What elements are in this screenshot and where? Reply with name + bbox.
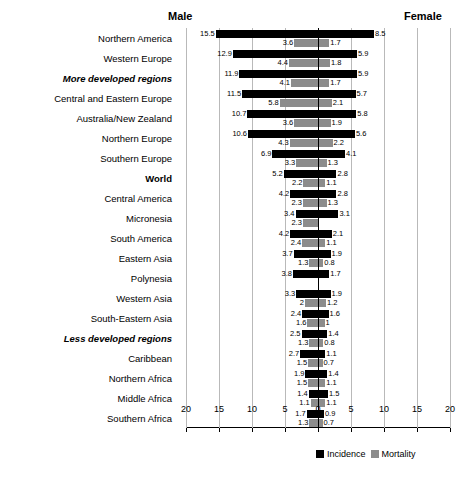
right-incidence-bar xyxy=(318,210,338,218)
x-axis-tick xyxy=(219,428,220,432)
right-mortality-bar xyxy=(318,79,329,87)
center-axis-line xyxy=(318,28,319,428)
left-mortality-value: 2.4 xyxy=(291,239,302,247)
left-mortality-bar xyxy=(302,239,318,247)
left-incidence-value: 1.9 xyxy=(294,370,305,378)
left-incidence-bar xyxy=(290,190,318,198)
chart-legend: Incidence Mortality xyxy=(316,449,416,459)
right-incidence-bar xyxy=(318,290,331,298)
left-mortality-value: 1.5 xyxy=(297,379,308,387)
right-mortality-bar xyxy=(318,99,332,107)
region-label: Australia/New Zealand xyxy=(76,113,172,124)
right-incidence-value: 1.4 xyxy=(327,370,338,378)
region-label-column: Northern AmericaWestern EuropeMore devel… xyxy=(0,28,180,428)
x-axis-tick xyxy=(285,428,286,432)
left-incidence-bar xyxy=(247,110,318,118)
right-incidence-value: 1.4 xyxy=(327,330,338,338)
left-mortality-bar xyxy=(309,419,318,427)
left-incidence-bar xyxy=(284,170,318,178)
left-mortality-bar xyxy=(294,39,318,47)
left-mortality-value: 2.3 xyxy=(291,199,302,207)
right-mortality-value: 0.8 xyxy=(323,339,334,347)
left-mortality-bar xyxy=(309,339,318,347)
left-incidence-value: 3.8 xyxy=(281,270,292,278)
right-mortality-value: 1.3 xyxy=(327,199,338,207)
female-axis-header: Female xyxy=(404,10,442,22)
right-mortality-bar xyxy=(318,239,325,247)
left-mortality-bar xyxy=(291,79,318,87)
right-mortality-bar xyxy=(318,379,325,387)
right-mortality-value: 1.7 xyxy=(329,79,340,87)
right-incidence-bar xyxy=(318,150,345,158)
left-mortality-value: 1.3 xyxy=(298,259,309,267)
left-mortality-bar xyxy=(296,159,318,167)
right-mortality-value: 1.1 xyxy=(325,239,336,247)
left-incidence-bar xyxy=(290,230,318,238)
right-incidence-bar xyxy=(318,50,357,58)
legend-item-incidence: Incidence xyxy=(316,449,366,459)
right-incidence-value: 2.8 xyxy=(336,190,347,198)
legend-label-mortality: Mortality xyxy=(382,449,416,459)
right-mortality-value: 0.8 xyxy=(323,259,334,267)
x-axis-tick-label: 15 xyxy=(214,404,224,414)
right-incidence-bar xyxy=(318,190,336,198)
gridline xyxy=(285,28,286,428)
right-incidence-bar xyxy=(318,130,355,138)
x-axis-tick xyxy=(351,428,352,432)
left-incidence-bar xyxy=(309,390,318,398)
left-mortality-bar xyxy=(280,99,318,107)
right-mortality-bar xyxy=(318,119,331,127)
incidence-swatch-icon xyxy=(316,450,324,458)
right-incidence-bar xyxy=(318,310,329,318)
left-incidence-value: 12.9 xyxy=(217,50,233,58)
region-label: Caribbean xyxy=(128,353,172,364)
right-incidence-value: 1.9 xyxy=(331,290,342,298)
region-label: Central and Eastern Europe xyxy=(54,93,172,104)
region-label: Central America xyxy=(104,193,172,204)
left-mortality-bar xyxy=(308,379,318,387)
right-incidence-bar xyxy=(318,250,331,258)
left-mortality-value: 4.4 xyxy=(278,59,289,67)
right-incidence-value: 8.5 xyxy=(374,30,385,38)
right-incidence-bar xyxy=(318,90,356,98)
left-incidence-value: 2.7 xyxy=(289,350,300,358)
right-mortality-value: 1.2 xyxy=(326,299,337,307)
left-mortality-value: 3.6 xyxy=(283,119,294,127)
right-mortality-bar xyxy=(318,199,327,207)
left-incidence-value: 3.7 xyxy=(282,250,293,258)
right-incidence-value: 5.6 xyxy=(355,130,366,138)
left-mortality-value: 4.1 xyxy=(280,79,291,87)
left-incidence-value: 10.6 xyxy=(232,130,248,138)
region-label: Middle Africa xyxy=(118,393,172,404)
left-mortality-value: 1.1 xyxy=(299,399,310,407)
right-incidence-value: 5.8 xyxy=(356,110,367,118)
left-incidence-value: 11.9 xyxy=(224,70,239,78)
left-incidence-value: 1.4 xyxy=(297,390,308,398)
left-mortality-value: 1.5 xyxy=(297,359,308,367)
x-axis-tick-label: 5 xyxy=(348,404,353,414)
right-mortality-bar xyxy=(318,299,326,307)
left-mortality-value: 2 xyxy=(300,299,305,307)
right-incidence-bar xyxy=(318,330,327,338)
right-mortality-value: 2.1 xyxy=(332,99,343,107)
x-axis-tick-label: 20 xyxy=(445,404,455,414)
left-mortality-bar xyxy=(303,199,318,207)
right-incidence-value: 2.1 xyxy=(332,230,343,238)
gridline xyxy=(450,28,451,428)
left-incidence-value: 10.7 xyxy=(232,110,248,118)
left-mortality-bar xyxy=(307,319,318,327)
x-axis-tick xyxy=(450,428,451,432)
right-mortality-bar xyxy=(318,59,330,67)
right-incidence-value: 4.1 xyxy=(345,150,356,158)
left-mortality-value: 1.3 xyxy=(298,419,309,427)
region-label: More developed regions xyxy=(63,73,172,84)
left-mortality-value: 3.3 xyxy=(285,159,296,167)
right-incidence-bar xyxy=(318,230,332,238)
right-mortality-bar xyxy=(318,39,329,47)
left-incidence-bar xyxy=(242,90,318,98)
right-incidence-value: 1.5 xyxy=(328,390,339,398)
right-incidence-value: 1.7 xyxy=(329,270,340,278)
left-incidence-value: 6.9 xyxy=(261,150,272,158)
right-incidence-value: 2.8 xyxy=(336,170,347,178)
left-mortality-bar xyxy=(290,139,318,147)
